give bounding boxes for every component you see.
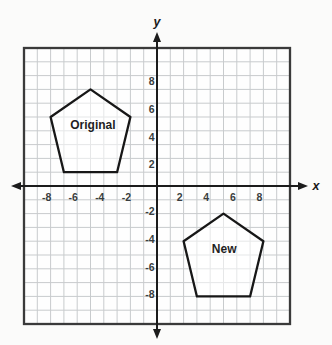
y-tick-label: 4 xyxy=(149,131,155,143)
x-tick-label: 6 xyxy=(230,191,236,203)
x-tick-label: -6 xyxy=(69,191,78,203)
x-tick-label: 2 xyxy=(177,191,183,203)
x-axis-arrow-right xyxy=(298,182,308,190)
y-axis-label: y xyxy=(153,15,162,29)
y-tick-label: -6 xyxy=(145,261,154,273)
y-tick-label: 6 xyxy=(149,103,155,115)
x-axis-arrow-left xyxy=(11,182,21,190)
coordinate-plane-svg: xy-8-6-4-224688642-2-4-6-8OriginalNew xyxy=(0,0,332,345)
y-tick-label: -2 xyxy=(145,205,154,217)
y-tick-label: -8 xyxy=(145,288,154,300)
x-tick-label: -2 xyxy=(122,191,131,203)
x-tick-label: -4 xyxy=(95,191,104,203)
x-tick-label: -8 xyxy=(42,191,51,203)
coordinate-plane-figure: xy-8-6-4-224688642-2-4-6-8OriginalNew xyxy=(0,0,332,345)
y-axis-arrow-down xyxy=(153,329,161,339)
x-tick-label: 4 xyxy=(203,191,209,203)
original-pentagon-label: Original xyxy=(70,118,115,132)
x-tick-label: 8 xyxy=(256,191,262,203)
x-axis-label: x xyxy=(312,179,321,193)
y-axis-arrow-up xyxy=(153,32,161,42)
y-tick-label: -4 xyxy=(145,233,154,245)
y-tick-label: 2 xyxy=(149,158,155,170)
y-tick-label: 8 xyxy=(149,75,155,87)
new-pentagon-label: New xyxy=(212,242,237,256)
